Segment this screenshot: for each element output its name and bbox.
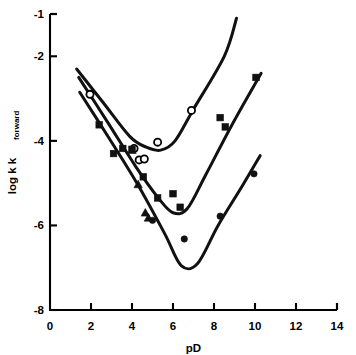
x-axis-title: pD bbox=[186, 342, 201, 354]
marker-filled-circle bbox=[217, 213, 223, 219]
chart-svg: 02468101214-1-2-4-6-8pDlog k kforward bbox=[0, 0, 356, 355]
y-tick-label: -4 bbox=[34, 135, 45, 147]
marker-filled-square bbox=[154, 195, 161, 202]
marker-filled-circle bbox=[251, 171, 257, 177]
marker-filled-square bbox=[96, 121, 103, 128]
y-tick-label: -8 bbox=[34, 304, 45, 316]
y-axis-title: log k kforward bbox=[6, 111, 21, 195]
chart-figure: 02468101214-1-2-4-6-8pDlog k kforward bbox=[0, 0, 356, 355]
marker-filled-square bbox=[140, 174, 147, 181]
y-axis-title-main: log k k bbox=[6, 157, 18, 194]
y-axis-title-sub: forward bbox=[12, 111, 21, 140]
marker-filled-square bbox=[222, 124, 229, 131]
marker-open-circle bbox=[188, 107, 195, 114]
x-tick-label: 10 bbox=[249, 320, 262, 332]
x-tick-label: 0 bbox=[47, 320, 53, 332]
marker-open-circle bbox=[154, 139, 161, 146]
x-tick-label: 6 bbox=[170, 320, 176, 332]
y-tick-label: -2 bbox=[34, 50, 44, 62]
marker-filled-square bbox=[110, 150, 117, 157]
x-tick-label: 4 bbox=[129, 320, 136, 332]
marker-filled-circle bbox=[181, 236, 187, 242]
x-tick-label: 14 bbox=[331, 320, 344, 332]
y-tick-label: -1 bbox=[34, 8, 45, 20]
marker-filled-square bbox=[217, 114, 224, 121]
marker-open-circle bbox=[86, 91, 93, 98]
marker-filled-square bbox=[177, 204, 184, 211]
marker-filled-square bbox=[253, 74, 260, 81]
x-tick-label: 8 bbox=[211, 320, 218, 332]
x-tick-label: 2 bbox=[88, 320, 94, 332]
marker-filled-square bbox=[170, 190, 177, 197]
upper-curve bbox=[77, 18, 237, 150]
y-tick-label: -6 bbox=[34, 219, 44, 231]
marker-filled-square bbox=[119, 145, 126, 152]
marker-filled-circle bbox=[149, 217, 155, 223]
x-tick-label: 12 bbox=[290, 320, 303, 332]
marker-open-circle bbox=[141, 155, 148, 162]
